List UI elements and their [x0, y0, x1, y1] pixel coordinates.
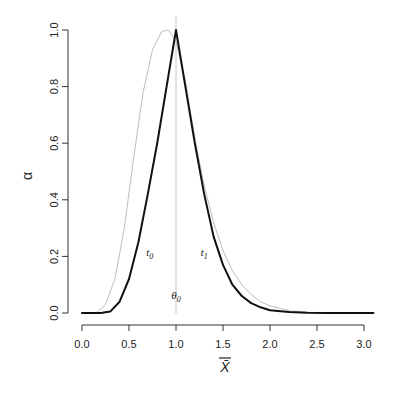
y-tick-label: 0.4 [48, 192, 60, 207]
y-tick-label: 0.2 [48, 249, 60, 264]
y-tick-label: 1.0 [48, 22, 60, 37]
x-axis-label: X̄ [219, 359, 230, 375]
x-tick-label: 0.5 [121, 338, 136, 350]
annotation-t1: t1 [201, 246, 208, 261]
annotation-θ0: θ0 [171, 289, 180, 304]
x-tick-label: 3.0 [356, 338, 371, 350]
x-tick-label: 1.0 [168, 338, 183, 350]
y-axis-label: α [19, 172, 35, 180]
annotation-t0: t0 [146, 246, 153, 261]
dark-curve [82, 30, 373, 313]
x-axis: 0.00.51.01.52.02.53.0 [74, 325, 371, 350]
gray-curve [82, 30, 373, 313]
chart: 0.00.20.40.60.81.0 0.00.51.01.52.02.53.0… [0, 0, 400, 396]
y-axis: 0.00.20.40.60.81.0 [48, 22, 68, 320]
y-tick-label: 0.6 [48, 136, 60, 151]
x-tick-label: 0.0 [74, 338, 89, 350]
annotations: t0t1θ0 [146, 246, 208, 303]
series-layer [82, 30, 373, 313]
x-tick-label: 1.5 [215, 338, 230, 350]
y-tick-label: 0.0 [48, 305, 60, 320]
x-tick-label: 2.0 [262, 338, 277, 350]
x-tick-label: 2.5 [309, 338, 324, 350]
y-tick-label: 0.8 [48, 79, 60, 94]
